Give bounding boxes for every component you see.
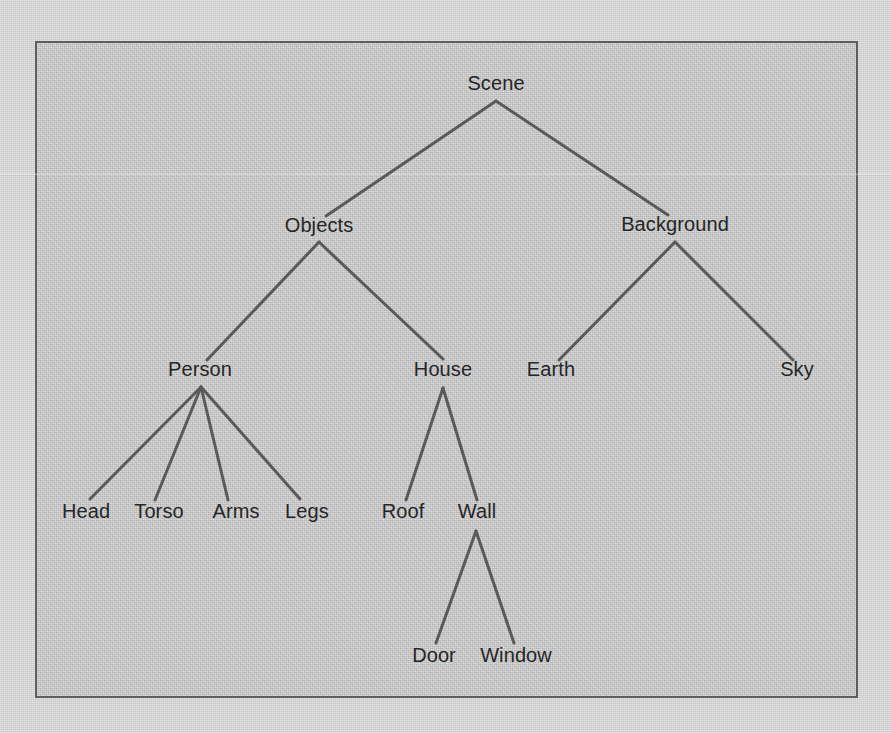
tree-node-objects: Objects <box>285 215 354 235</box>
tree-node-sky: Sky <box>780 359 814 379</box>
tree-node-wall: Wall <box>458 501 497 521</box>
tree-node-person: Person <box>168 359 232 379</box>
tree-node-torso: Torso <box>134 501 183 521</box>
tree-node-background: Background <box>621 214 729 234</box>
figure-root: SceneObjectsBackgroundPersonHouseEarthSk… <box>0 0 891 733</box>
tree-node-earth: Earth <box>527 359 575 379</box>
tree-node-head: Head <box>62 501 110 521</box>
tree-node-legs: Legs <box>285 501 329 521</box>
tree-node-arms: Arms <box>212 501 259 521</box>
tree-node-roof: Roof <box>382 501 425 521</box>
tree-node-house: House <box>414 359 472 379</box>
tree-node-window: Window <box>480 645 552 665</box>
tree-node-door: Door <box>412 645 456 665</box>
tree-node-scene: Scene <box>467 73 524 93</box>
